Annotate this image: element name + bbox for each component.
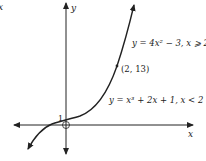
point-label: (2, 13) <box>121 64 149 74</box>
lower-piece-label: y = x³ + 2x + 1, x < 2 <box>108 95 203 105</box>
corner-fragment-text: x <box>0 2 3 12</box>
upper-piece-label: y = 4x² − 3, x ⩾ 2 <box>131 38 206 48</box>
cubic-curve <box>28 66 117 149</box>
y-axis-label: y <box>70 3 77 13</box>
quadratic-curve <box>117 5 134 66</box>
point-2-13-marker-icon <box>116 65 119 68</box>
x-axis-label: x <box>188 129 193 139</box>
graph-canvas: x x y 1 (2, 13) y = 4x² − 3, x ⩾ 2 y = x… <box>0 0 206 161</box>
